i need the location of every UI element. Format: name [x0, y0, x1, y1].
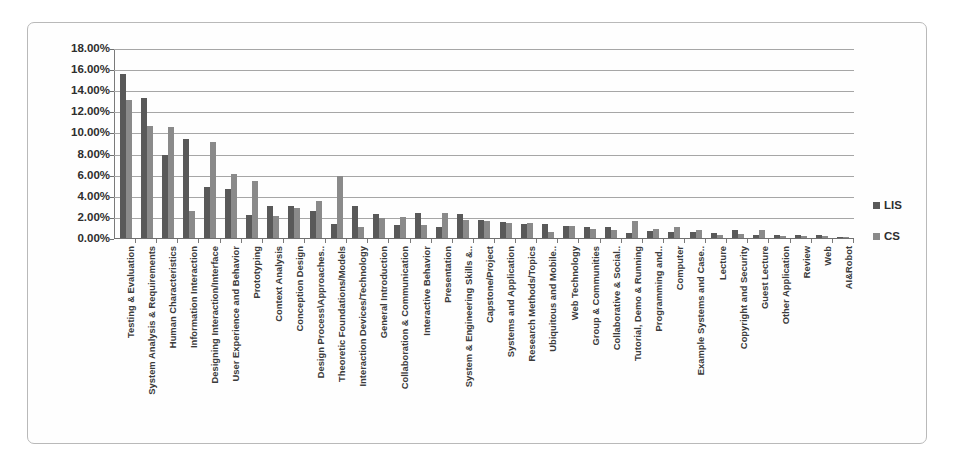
bar-group	[474, 49, 495, 238]
bar-cs	[801, 236, 807, 238]
bar-group	[664, 49, 685, 238]
bar-cs	[358, 227, 364, 238]
bar-cs	[294, 208, 300, 238]
bar-cs	[759, 230, 765, 238]
x-axis-label-cell: Human Characteristics	[157, 244, 178, 409]
y-axis-tickmark	[110, 112, 114, 113]
bar-group	[199, 49, 220, 238]
chart-plot-area	[114, 49, 854, 239]
x-axis-label-cell: Theoretic Foundations/Models	[326, 244, 347, 409]
x-axis-category-label: Context Analysis	[274, 246, 283, 322]
x-axis-category-label: Web Technology	[570, 246, 579, 320]
x-axis-category-label: Review	[802, 246, 811, 278]
bar-cs	[379, 218, 385, 238]
x-axis-category-label: Collaborative & Social..	[612, 246, 621, 350]
bar-group	[685, 49, 706, 238]
bar-group	[643, 49, 664, 238]
legend-label: CS	[884, 231, 900, 243]
bar-cs	[696, 230, 702, 238]
legend-label: LIS	[884, 200, 902, 212]
bar-cs	[527, 223, 533, 238]
bar-group	[727, 49, 748, 238]
x-axis-category-label: Designing Interaction/Interface	[210, 246, 219, 384]
x-axis-category-label: Design Process\Approaches..	[316, 246, 325, 378]
x-axis-label-cell: Guest Lecture	[749, 244, 770, 409]
x-axis-category-label: User Experience and Behavior	[231, 246, 240, 381]
x-axis-category-label: Collaboration & Communication	[400, 246, 409, 389]
bar-group	[622, 49, 643, 238]
bar-cs	[316, 201, 322, 238]
bar-group	[706, 49, 727, 238]
x-axis-category-label: Tutorial, Demo & Running	[633, 246, 642, 361]
x-axis-category-label: Group & Communities	[591, 246, 600, 345]
x-axis-label-cell: Collaborative & Social..	[601, 244, 622, 409]
x-axis-category-label: System Analysis & Requirements	[147, 246, 156, 395]
bar-cs	[252, 181, 258, 238]
x-axis-label-cell: Copyright and Security	[728, 244, 749, 409]
bar-cs	[843, 237, 849, 238]
bar-group	[748, 49, 769, 238]
bar-cs	[421, 225, 427, 238]
y-axis-tickmark	[110, 70, 114, 71]
x-axis-category-label: Copyright and Security	[739, 246, 748, 349]
legend-swatch-icon	[873, 202, 880, 209]
bar-cs	[674, 227, 680, 238]
bar-cs	[273, 216, 279, 238]
x-axis-label-cell: Tutorial, Demo & Running	[622, 244, 643, 409]
bar-cs	[780, 236, 786, 238]
x-axis-label-cell: AI&Robot	[834, 244, 855, 409]
bar-cs	[126, 100, 132, 238]
x-axis-label-cell: Other Application	[770, 244, 791, 409]
y-axis-tick-label: 6.00%	[42, 170, 110, 182]
x-axis-label-cell: Lecture	[707, 244, 728, 409]
bar-group	[769, 49, 790, 238]
y-axis-tick-label: 4.00%	[42, 191, 110, 203]
legend-item-lis[interactable]: LIS	[873, 200, 933, 212]
x-axis-category-label: System & Engineering Skills &..	[464, 246, 473, 387]
x-axis-label-cell: Presentation	[432, 244, 453, 409]
x-axis-label-cell: Research Methods/Topics	[517, 244, 538, 409]
x-axis-label-cell: Designing Interaction/Interface	[200, 244, 221, 409]
x-axis-label-cell: Web	[813, 244, 834, 409]
y-axis-tickmark	[110, 218, 114, 219]
y-axis-tickmark	[110, 91, 114, 92]
x-axis-label-cell: Conception Design	[284, 244, 305, 409]
bar-group	[791, 49, 812, 238]
bar-cs	[548, 232, 554, 238]
x-axis-category-label: General Introduction	[379, 246, 388, 338]
bar-group	[516, 49, 537, 238]
x-axis-category-label: Capstone/Project	[485, 246, 494, 323]
x-axis-label-cell: System Analysis & Requirements	[136, 244, 157, 409]
y-axis-tickmark	[110, 239, 114, 240]
bar-cs	[590, 229, 596, 239]
x-axis-category-label: Web	[823, 246, 832, 266]
x-axis-label-cell: Web Technology	[559, 244, 580, 409]
y-axis-tick-label: 0.00%	[42, 233, 110, 245]
y-axis-tickmark	[110, 197, 114, 198]
x-axis-category-label: Human Characteristics	[168, 246, 177, 348]
bar-cs	[611, 230, 617, 238]
x-axis-category-labels: Testing & EvaluationSystem Analysis & Re…	[115, 244, 855, 409]
x-axis-category-label: Programming and..	[654, 246, 663, 331]
y-axis-tickmark	[110, 155, 114, 156]
x-axis-category-label: Research Methods/Topics	[527, 246, 536, 361]
bar-group	[812, 49, 833, 238]
x-axis-label-cell: User Experience and Behavior	[221, 244, 242, 409]
x-axis-label-cell: Information Interaction	[178, 244, 199, 409]
x-axis-label-cell: Systems and Application	[496, 244, 517, 409]
bar-group	[326, 49, 347, 238]
x-axis-label-cell: Collaboration & Communication	[390, 244, 411, 409]
x-axis-label-cell: Design Process\Approaches..	[305, 244, 326, 409]
x-axis-category-label: Other Application	[781, 246, 790, 324]
x-axis-label-cell: Programming and..	[644, 244, 665, 409]
bar-group	[411, 49, 432, 238]
y-axis-tick-label: 16.00%	[42, 64, 110, 76]
bar-group	[305, 49, 326, 238]
legend-swatch-icon	[873, 233, 880, 240]
x-axis-category-label: Presentation	[443, 246, 452, 303]
chart-legend: LISCS	[873, 200, 933, 261]
bar-group	[389, 49, 410, 238]
x-axis-label-cell: Prototyping	[242, 244, 263, 409]
legend-item-cs[interactable]: CS	[873, 231, 933, 243]
bar-group	[221, 49, 242, 238]
